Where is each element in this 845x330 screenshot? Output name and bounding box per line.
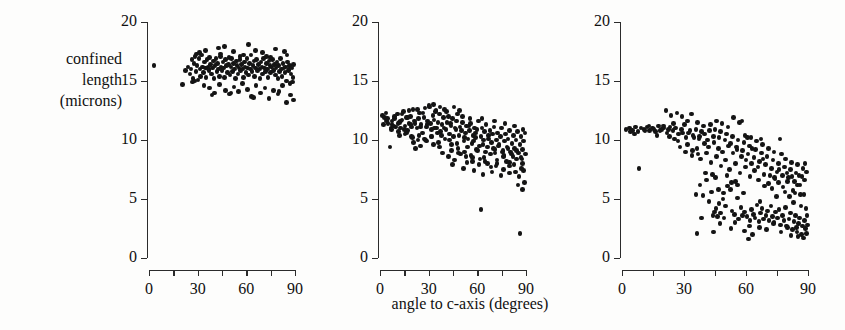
- data-point: [667, 134, 672, 139]
- data-point: [798, 192, 803, 197]
- data-point: [748, 218, 753, 223]
- data-point: [689, 112, 694, 117]
- x-axis-tick: [746, 270, 747, 276]
- data-point: [680, 114, 685, 119]
- data-point: [685, 142, 690, 147]
- data-point: [727, 167, 732, 172]
- data-point: [718, 211, 723, 216]
- data-point: [718, 221, 723, 226]
- data-point: [803, 161, 808, 166]
- data-point: [695, 120, 700, 125]
- x-axis-tick-label: 60: [729, 280, 763, 298]
- data-point: [756, 178, 761, 183]
- data-point: [749, 161, 754, 166]
- data-point: [779, 230, 784, 235]
- data-point: [711, 134, 716, 139]
- data-point: [771, 221, 776, 226]
- data-point: [748, 174, 753, 179]
- data-point: [742, 140, 747, 145]
- y-axis-tick-label: 5: [576, 189, 610, 207]
- data-point: [729, 180, 734, 185]
- data-point: [695, 146, 700, 151]
- data-point: [669, 113, 674, 118]
- data-point: [721, 197, 726, 202]
- data-point: [632, 132, 637, 137]
- data-point: [750, 232, 755, 237]
- data-point: [703, 171, 708, 176]
- data-point: [707, 128, 712, 133]
- y-axis-tick-label: 0: [576, 248, 610, 266]
- data-point: [683, 150, 688, 155]
- data-point: [658, 128, 663, 133]
- data-point: [765, 154, 770, 159]
- data-point: [760, 142, 765, 147]
- x-axis-tick: [684, 270, 685, 276]
- y-axis-tick: [614, 199, 620, 200]
- data-point: [785, 179, 790, 184]
- data-point: [690, 148, 695, 153]
- data-point: [742, 229, 747, 234]
- data-point: [675, 111, 680, 116]
- scatter-figure: confined length (microns) angle to c-axi…: [0, 0, 845, 330]
- data-point: [801, 236, 806, 241]
- data-point: [760, 206, 765, 211]
- data-point: [637, 166, 642, 171]
- data-point: [739, 205, 744, 210]
- x-axis-tick: [715, 270, 716, 276]
- x-axis-tick-label: 0: [605, 280, 639, 298]
- x-axis-tick: [622, 270, 623, 276]
- data-point: [799, 204, 804, 209]
- data-point: [770, 214, 775, 219]
- data-point: [804, 170, 809, 175]
- data-point: [661, 124, 666, 129]
- data-point: [777, 167, 782, 172]
- data-point: [757, 225, 762, 230]
- data-point: [802, 178, 807, 183]
- data-point: [736, 138, 741, 143]
- data-point: [788, 211, 793, 216]
- data-point: [686, 131, 691, 136]
- y-axis-tick: [614, 81, 620, 82]
- data-point: [805, 223, 810, 228]
- data-point: [704, 178, 709, 183]
- data-point: [765, 209, 770, 214]
- data-point: [746, 152, 751, 157]
- data-point: [783, 205, 788, 210]
- data-point: [795, 162, 800, 167]
- data-point: [715, 214, 720, 219]
- data-point: [735, 183, 740, 188]
- x-axis-tick-label: 90: [791, 280, 825, 298]
- data-point: [735, 196, 740, 201]
- data-point: [743, 165, 748, 170]
- x-axis-tick: [808, 270, 809, 276]
- data-point: [708, 122, 713, 127]
- data-point: [678, 145, 683, 150]
- data-point: [682, 122, 687, 127]
- data-point: [804, 231, 809, 236]
- data-point: [741, 191, 746, 196]
- data-point: [733, 161, 738, 166]
- data-point: [721, 191, 726, 196]
- y-axis-tick-label: 20: [576, 12, 610, 30]
- y-axis-tick-label: 10: [576, 130, 610, 148]
- data-point: [739, 154, 744, 159]
- data-point: [694, 192, 699, 197]
- data-point: [722, 216, 727, 221]
- data-point: [744, 158, 749, 163]
- data-point: [772, 150, 777, 155]
- data-point: [726, 125, 731, 130]
- y-axis-tick-label: 15: [576, 71, 610, 89]
- data-point: [717, 201, 722, 206]
- data-point: [706, 145, 711, 150]
- data-point: [752, 168, 757, 173]
- data-point: [709, 190, 714, 195]
- data-point: [673, 126, 678, 131]
- data-point: [747, 224, 752, 229]
- data-point: [729, 226, 734, 231]
- data-point: [726, 144, 731, 149]
- data-point: [759, 137, 764, 142]
- data-point: [664, 108, 669, 113]
- data-point: [787, 194, 792, 199]
- data-point: [804, 206, 809, 211]
- data-point: [789, 233, 794, 238]
